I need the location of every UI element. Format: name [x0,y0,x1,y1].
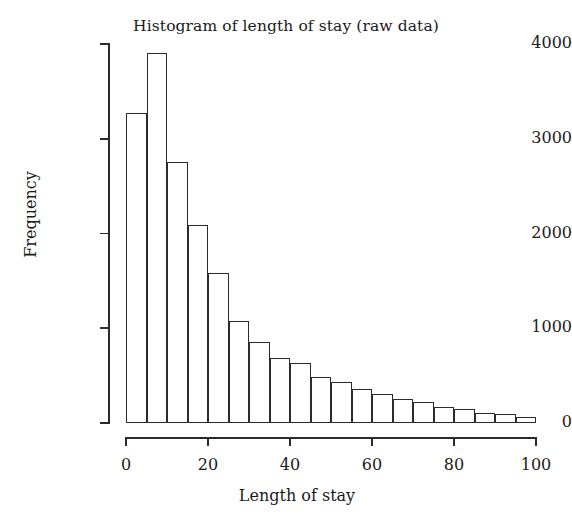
x-axis-tick-label: 80 [419,455,489,474]
y-axis-tick [100,327,109,329]
histogram-bar [188,225,209,423]
y-axis-title: Frequency [21,115,40,315]
histogram-bar [413,402,434,423]
histogram-bar [270,358,291,423]
histogram-bar [249,342,270,423]
x-axis-tick [371,437,373,446]
x-axis-tick [289,437,291,446]
x-axis-title: Length of stay [0,486,572,505]
histogram-bar [393,399,414,423]
y-axis-tick [100,138,109,140]
histogram-figure: Histogram of length of stay (raw data) 0… [0,0,572,528]
histogram-bar [290,363,311,423]
x-axis-tick [535,437,537,446]
histogram-bar [475,413,496,423]
y-axis-tick [100,422,109,424]
plot-area [126,44,536,423]
histogram-bar [495,414,516,423]
histogram-bar [331,382,352,423]
histogram-bar [229,321,250,423]
x-axis-tick-label: 100 [501,455,571,474]
x-axis-tick-label: 40 [255,455,325,474]
histogram-bar [372,394,393,423]
histogram-bar [208,273,229,423]
histogram-bar [352,389,373,423]
x-axis-tick [207,437,209,446]
y-axis-tick [100,233,109,235]
x-axis-tick-label: 20 [173,455,243,474]
x-axis-line [126,437,537,439]
histogram-bar [434,407,455,423]
x-axis-tick [453,437,455,446]
histogram-bar [454,409,475,423]
histogram-bar [516,417,537,423]
y-axis-tick [100,43,109,45]
histogram-bar [147,53,168,423]
histogram-bar [311,377,332,423]
x-axis-tick-label: 60 [337,455,407,474]
histogram-bar [167,162,188,424]
x-axis-tick [125,437,127,446]
histogram-bar [126,113,147,423]
x-axis-tick-label: 0 [91,455,161,474]
